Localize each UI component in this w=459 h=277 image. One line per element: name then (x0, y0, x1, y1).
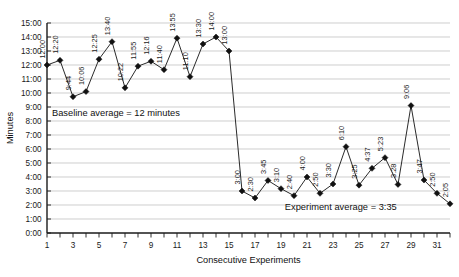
data-point-marker (57, 57, 63, 63)
x-axis-tick-label: 13 (198, 241, 208, 250)
y-axis-tick-label: 9:00 (26, 103, 42, 112)
y-axis-tick-label: 11:00 (22, 75, 42, 84)
data-point-marker (174, 35, 180, 41)
line-chart-figure: 0:001:002:003:004:005:006:007:008:009:00… (0, 0, 459, 277)
data-point-label: 3:30 (324, 163, 333, 177)
y-axis-title: Minutes (5, 112, 15, 145)
x-axis-tick-label: 19 (276, 241, 286, 250)
data-point-label: 13:00 (220, 26, 229, 45)
x-axis-tick-label: 17 (250, 241, 260, 250)
y-axis-tick-label: 3:00 (26, 187, 42, 196)
data-point-label: 10:06 (77, 67, 86, 86)
x-axis-tick-label: 21 (302, 241, 312, 250)
y-axis-tick-label: 12:00 (21, 61, 42, 70)
data-point-label: 2:05 (441, 183, 450, 197)
y-axis-tick-label: 7:00 (26, 131, 42, 140)
data-point-label: 3:00 (233, 170, 242, 184)
data-point-label: 14:00 (207, 12, 216, 31)
data-point-label: 3:28 (389, 164, 398, 178)
data-point-label: 6:10 (337, 126, 346, 140)
data-point-label: 11:10 (181, 52, 190, 70)
data-point-marker (122, 85, 128, 91)
data-point-label: 13:30 (194, 19, 203, 38)
y-axis-tick-label: 1:00 (26, 215, 42, 224)
data-point-marker (161, 67, 167, 73)
data-point-label: 11:40 (155, 45, 164, 63)
y-axis-tick-label: 5:00 (26, 159, 42, 168)
data-point-label: 3:47 (415, 159, 424, 173)
y-axis-tick-label: 2:00 (26, 201, 42, 210)
data-point-label: 9:44 (64, 76, 73, 90)
y-axis-tick-label: 4:00 (26, 173, 42, 182)
data-point-marker (395, 181, 401, 187)
x-axis-tick-label: 25 (354, 241, 364, 250)
x-axis-tick-label: 31 (432, 241, 442, 250)
data-point-label: 2:50 (428, 172, 437, 186)
data-point-label: 2:50 (311, 172, 320, 186)
data-point-label: 13:40 (103, 17, 112, 36)
data-point-label: 12:16 (142, 36, 151, 55)
data-point-marker (408, 103, 414, 109)
x-axis-title: Consecutive Experiments (196, 255, 301, 265)
data-point-label: 9:06 (402, 85, 411, 99)
y-axis-tick-label: 6:00 (26, 145, 42, 154)
data-point-label: 4:00 (298, 156, 307, 170)
x-axis-tick-label: 5 (97, 241, 102, 250)
data-point-marker (70, 94, 76, 100)
y-axis-tick-label: 10:00 (21, 89, 42, 98)
data-point-label: 3:45 (259, 160, 268, 174)
data-point-marker (148, 58, 154, 64)
experiment-average-annotation: Experiment average = 3:35 (285, 202, 397, 212)
data-point-label: 2:30 (246, 177, 255, 191)
x-axis-tick-label: 9 (149, 241, 154, 250)
x-axis-tick-label: 7 (123, 241, 128, 250)
baseline-average-annotation: Baseline average = 12 minutes (52, 108, 180, 118)
y-axis-tick-label: 15:00 (21, 19, 42, 28)
x-axis-tick-label: 27 (380, 241, 390, 250)
data-point-marker (44, 62, 50, 68)
data-point-label: 12:00 (38, 40, 47, 59)
data-point-label: 3:10 (272, 168, 281, 182)
x-axis-tick-label: 15 (224, 241, 234, 250)
x-axis-tick-label: 1 (45, 241, 50, 250)
data-point-label: 11:55 (129, 42, 138, 60)
y-axis-tick-label: 8:00 (26, 117, 42, 126)
data-point-label: 2:40 (285, 175, 294, 189)
data-point-label: 13:55 (168, 13, 177, 32)
data-point-label: 12:20 (51, 35, 60, 54)
data-point-marker (239, 188, 245, 194)
data-point-label: 3:25 (350, 164, 359, 178)
x-axis-tick-label: 23 (328, 241, 338, 250)
data-point-label: 5:23 (376, 137, 385, 151)
x-axis-tick-label: 11 (173, 241, 182, 250)
data-point-marker (291, 193, 297, 199)
data-point-marker (135, 63, 141, 69)
data-point-label: 12:25 (90, 34, 99, 53)
data-point-label: 10:22 (116, 63, 125, 82)
x-axis-tick-label: 29 (406, 241, 416, 250)
y-axis-tick-label: 0:00 (26, 229, 42, 238)
x-axis-tick-label: 3 (71, 241, 76, 250)
data-point-marker (83, 89, 89, 95)
chart-canvas: 0:001:002:003:004:005:006:007:008:009:00… (0, 0, 459, 277)
data-point-marker (200, 41, 206, 47)
data-point-label: 4:37 (363, 147, 372, 161)
